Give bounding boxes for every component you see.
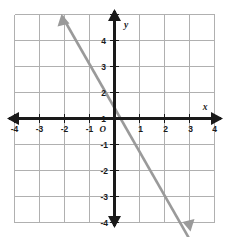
origin-label: O — [100, 124, 107, 134]
y-tick-label: -3 — [100, 192, 108, 202]
y-tick-label: -1 — [100, 140, 108, 150]
x-tick-label: 4 — [212, 124, 217, 134]
x-tick-label: 1 — [138, 124, 143, 134]
coordinate-plane-figure: -4 -3 -2 -1 1 2 3 4 4 3 2 1 -1 -2 -3 -4 … — [0, 0, 230, 237]
y-tick-label: -2 — [100, 166, 108, 176]
coordinate-plane-svg: -4 -3 -2 -1 1 2 3 4 4 3 2 1 -1 -2 -3 -4 … — [0, 0, 230, 237]
x-tick-label: -4 — [11, 124, 19, 134]
x-tick-label: 2 — [163, 124, 168, 134]
x-tick-label: -3 — [36, 124, 44, 134]
y-tick-label: 2 — [101, 88, 106, 98]
y-axis-label: y — [123, 20, 129, 30]
y-tick-label: 3 — [101, 62, 106, 72]
y-tick-label: 1 — [101, 114, 106, 124]
x-axis-label: x — [202, 102, 208, 112]
x-tick-label: 3 — [188, 124, 193, 134]
y-tick-label: 4 — [101, 36, 106, 46]
y-tick-label: -4 — [100, 218, 108, 228]
x-tick-label: -2 — [61, 124, 69, 134]
x-tick-label: -1 — [86, 124, 94, 134]
